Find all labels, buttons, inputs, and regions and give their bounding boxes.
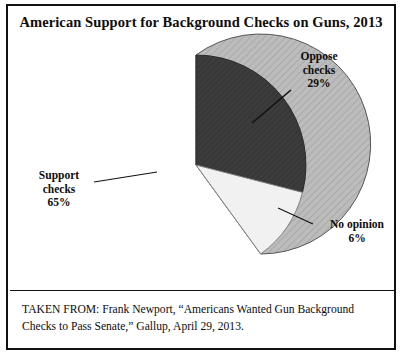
pie-slice-no-opinion: [196, 165, 303, 254]
pie-label-support-percent: 65%: [20, 196, 98, 210]
pie-label-support-line1: Support: [20, 169, 98, 183]
pie-label-no-opinion-line1: No opinion: [314, 218, 400, 232]
leader-line-oppose-checks: [252, 90, 291, 123]
figure-frame: American Support for Background Checks o…: [6, 4, 396, 350]
pie-label-oppose-percent: 29%: [280, 77, 358, 91]
pie-label-support-line2: checks: [20, 183, 98, 197]
leader-line-support-checks: [94, 172, 157, 182]
pie-label-no-opinion-percent: 6%: [314, 232, 400, 246]
caption-divider: [10, 290, 396, 291]
pie-label-oppose-line1: Oppose: [280, 50, 358, 64]
leader-line-no-opinion: [278, 208, 313, 224]
pie-label-oppose-checks: Oppose checks 29%: [280, 50, 358, 91]
pie-label-oppose-line2: checks: [280, 64, 358, 78]
pie-label-no-opinion: No opinion 6%: [314, 218, 400, 245]
pie-label-support-checks: Support checks 65%: [20, 169, 98, 210]
pie-chart-plot-area: Oppose checks 29% Support checks 65% No …: [8, 6, 394, 348]
source-caption: TAKEN FROM: Frank Newport, “Americans Wa…: [22, 302, 384, 335]
